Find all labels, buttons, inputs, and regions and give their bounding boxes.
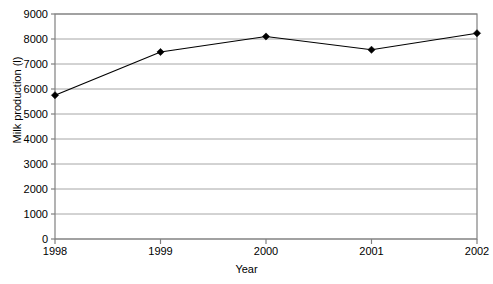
line-chart: 0100020003000400050006000700080009000 19… [0, 0, 493, 284]
x-axis-title: Year [0, 263, 493, 275]
y-axis-title: Milk production (l) [11, 30, 23, 170]
x-tick-label: 2000 [254, 245, 278, 257]
x-tick-label: 1999 [148, 245, 172, 257]
x-axis-tick-labels: 19981999200020012002 [0, 0, 493, 284]
x-tick-label: 2001 [359, 245, 383, 257]
x-tick-label: 2002 [465, 245, 489, 257]
x-tick-label: 1998 [43, 245, 67, 257]
